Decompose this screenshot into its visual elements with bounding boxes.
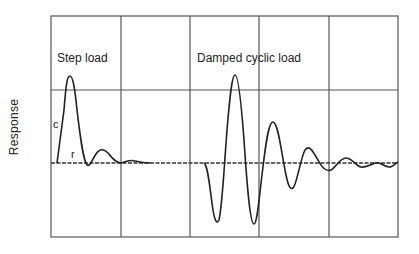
damped-cyclic-curve <box>204 75 398 224</box>
damped-cyclic-load-annotation: Damped cyclic load <box>197 51 301 65</box>
response-chart <box>0 0 419 254</box>
r-label: r <box>71 148 75 160</box>
step-load-annotation: Step load <box>57 51 108 65</box>
grid <box>51 16 398 237</box>
c-label: c <box>53 118 59 130</box>
y-axis-label: Response <box>7 99 21 155</box>
